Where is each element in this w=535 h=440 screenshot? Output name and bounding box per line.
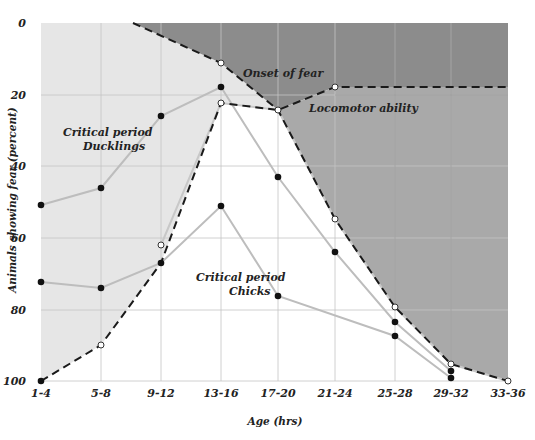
svg-text:0: 0 — [18, 17, 26, 30]
svg-text:1-4: 1-4 — [31, 387, 51, 400]
svg-text:29-32: 29-32 — [432, 387, 469, 400]
svg-text:13-16: 13-16 — [203, 387, 239, 400]
ducklings-label-line1: Critical period — [63, 126, 153, 139]
svg-text:25-28: 25-28 — [376, 387, 413, 400]
chicks-label-line1: Critical period — [196, 271, 286, 284]
svg-text:100: 100 — [3, 375, 26, 388]
svg-text:5-8: 5-8 — [91, 387, 111, 400]
svg-text:80: 80 — [11, 304, 27, 317]
chart: 0 20 40 60 80 100 1-4 5-8 9-12 13-16 17-… — [0, 0, 535, 440]
svg-text:17-20: 17-20 — [260, 387, 296, 400]
x-axis-title: Age (hrs) — [247, 415, 303, 427]
ducklings-label-line2: Ducklings — [82, 140, 145, 153]
onset-of-fear-label: Onset of fear — [243, 67, 324, 80]
x-axis-ticks: 1-4 5-8 9-12 13-16 17-20 21-24 25-28 29-… — [31, 387, 526, 400]
chicks-label-line2: Chicks — [229, 285, 270, 298]
svg-text:20: 20 — [10, 89, 27, 102]
locomotor-ability-label: Locomotor ability — [308, 102, 420, 115]
y-axis-title: Animals showing fear (percent) — [6, 107, 18, 294]
svg-text:33-36: 33-36 — [490, 387, 526, 400]
svg-text:21-24: 21-24 — [316, 387, 352, 400]
svg-text:9-12: 9-12 — [147, 387, 175, 400]
